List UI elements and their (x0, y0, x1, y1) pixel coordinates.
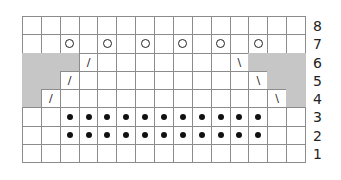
purl-dot-icon (86, 114, 92, 120)
chart-cell-knit (211, 53, 231, 72)
chart-cell-knit (116, 16, 136, 35)
chart-cell-purl (116, 107, 136, 126)
chart-cell-knit (116, 53, 136, 72)
purl-dot-icon (180, 114, 186, 120)
chart-cell-ssk: \ (230, 53, 250, 72)
chart-cell-knit (22, 107, 42, 126)
chart-cell-knit (286, 144, 306, 163)
chart-cell-knit (60, 144, 80, 163)
chart-cell-knit (79, 34, 99, 53)
chart-cell-knit (286, 107, 306, 126)
chart-cell-knit (60, 16, 80, 35)
chart-cell-no-stitch (41, 71, 61, 90)
chart-cell-k2tog: / (41, 89, 61, 108)
purl-dot-icon (86, 132, 92, 138)
chart-cell-knit (267, 16, 287, 35)
chart-cell-knit (79, 71, 99, 90)
chart-cell-knit (97, 89, 117, 108)
k2tog-slash-icon: / (87, 57, 91, 68)
chart-cell-no-stitch (248, 53, 268, 72)
chart-cell-knit (286, 34, 306, 53)
purl-dot-icon (236, 114, 242, 120)
chart-cell-knit (267, 107, 287, 126)
chart-cell-knit (41, 126, 61, 145)
purl-dot-icon (142, 114, 148, 120)
chart-cell-knit (22, 144, 42, 163)
chart-cell-knit (154, 71, 174, 90)
chart-cell-no-stitch (267, 53, 287, 72)
chart-cell-purl (248, 126, 268, 145)
chart-cell-knit (60, 89, 80, 108)
chart-cell-purl (154, 126, 174, 145)
chart-cell-yarn-over (60, 34, 80, 53)
chart-cell-knit (267, 126, 287, 145)
chart-cell-purl (97, 107, 117, 126)
chart-cell-no-stitch (286, 71, 306, 90)
chart-cell-no-stitch (22, 71, 42, 90)
purl-dot-icon (199, 114, 205, 120)
chart-cell-knit (97, 71, 117, 90)
chart-cell-no-stitch (267, 71, 287, 90)
chart-cell-knit (22, 126, 42, 145)
chart-cell-purl (97, 126, 117, 145)
purl-dot-icon (67, 132, 73, 138)
chart-cell-knit (211, 144, 231, 163)
chart-cell-no-stitch (22, 89, 42, 108)
yarn-over-icon (65, 39, 74, 48)
k2tog-slash-icon: / (49, 93, 53, 104)
row-number-label: 7 (313, 37, 322, 51)
chart-cell-purl (230, 126, 250, 145)
chart-cell-knit (135, 144, 155, 163)
chart-cell-yarn-over (135, 34, 155, 53)
purl-dot-icon (255, 132, 261, 138)
chart-cell-knit (41, 144, 61, 163)
chart-cell-knit (173, 144, 193, 163)
chart-cell-knit (173, 16, 193, 35)
chart-cell-knit (41, 16, 61, 35)
knitting-chart-grid: /\/\/\ (22, 16, 305, 162)
chart-cell-purl (248, 107, 268, 126)
chart-cell-knit (135, 71, 155, 90)
yarn-over-icon (103, 39, 112, 48)
chart-cell-purl (79, 126, 99, 145)
chart-cell-yarn-over (248, 34, 268, 53)
chart-cell-knit (267, 34, 287, 53)
chart-cell-knit (154, 89, 174, 108)
row-number-label: 6 (313, 56, 322, 70)
chart-cell-purl (154, 107, 174, 126)
chart-cell-no-stitch (60, 53, 80, 72)
ssk-backslash-icon: \ (238, 57, 242, 68)
chart-cell-knit (230, 89, 250, 108)
yarn-over-icon (141, 39, 150, 48)
k2tog-slash-icon: / (68, 75, 72, 86)
chart-cell-knit (211, 71, 231, 90)
purl-dot-icon (104, 132, 110, 138)
chart-cell-purl (60, 107, 80, 126)
chart-cell-knit (116, 34, 136, 53)
chart-cell-knit (230, 34, 250, 53)
chart-cell-knit (22, 16, 42, 35)
chart-cell-yarn-over (97, 34, 117, 53)
chart-cell-yarn-over (211, 34, 231, 53)
chart-cell-knit (286, 16, 306, 35)
chart-cell-knit (79, 16, 99, 35)
chart-cell-knit (173, 53, 193, 72)
chart-cell-knit (286, 126, 306, 145)
yarn-over-icon (216, 39, 225, 48)
chart-cell-purl (116, 126, 136, 145)
chart-cell-no-stitch (22, 53, 42, 72)
chart-cell-purl (60, 126, 80, 145)
purl-dot-icon (123, 132, 129, 138)
chart-cell-knit (41, 107, 61, 126)
chart-cell-purl (79, 107, 99, 126)
chart-cell-knit (211, 89, 231, 108)
chart-cell-no-stitch (286, 53, 306, 72)
row-number-label: 5 (313, 74, 322, 88)
chart-cell-knit (135, 16, 155, 35)
chart-cell-knit (154, 144, 174, 163)
chart-cell-k2tog: / (60, 71, 80, 90)
chart-cell-knit (230, 16, 250, 35)
purl-dot-icon (123, 114, 129, 120)
purl-dot-icon (67, 114, 73, 120)
chart-cell-knit (97, 144, 117, 163)
